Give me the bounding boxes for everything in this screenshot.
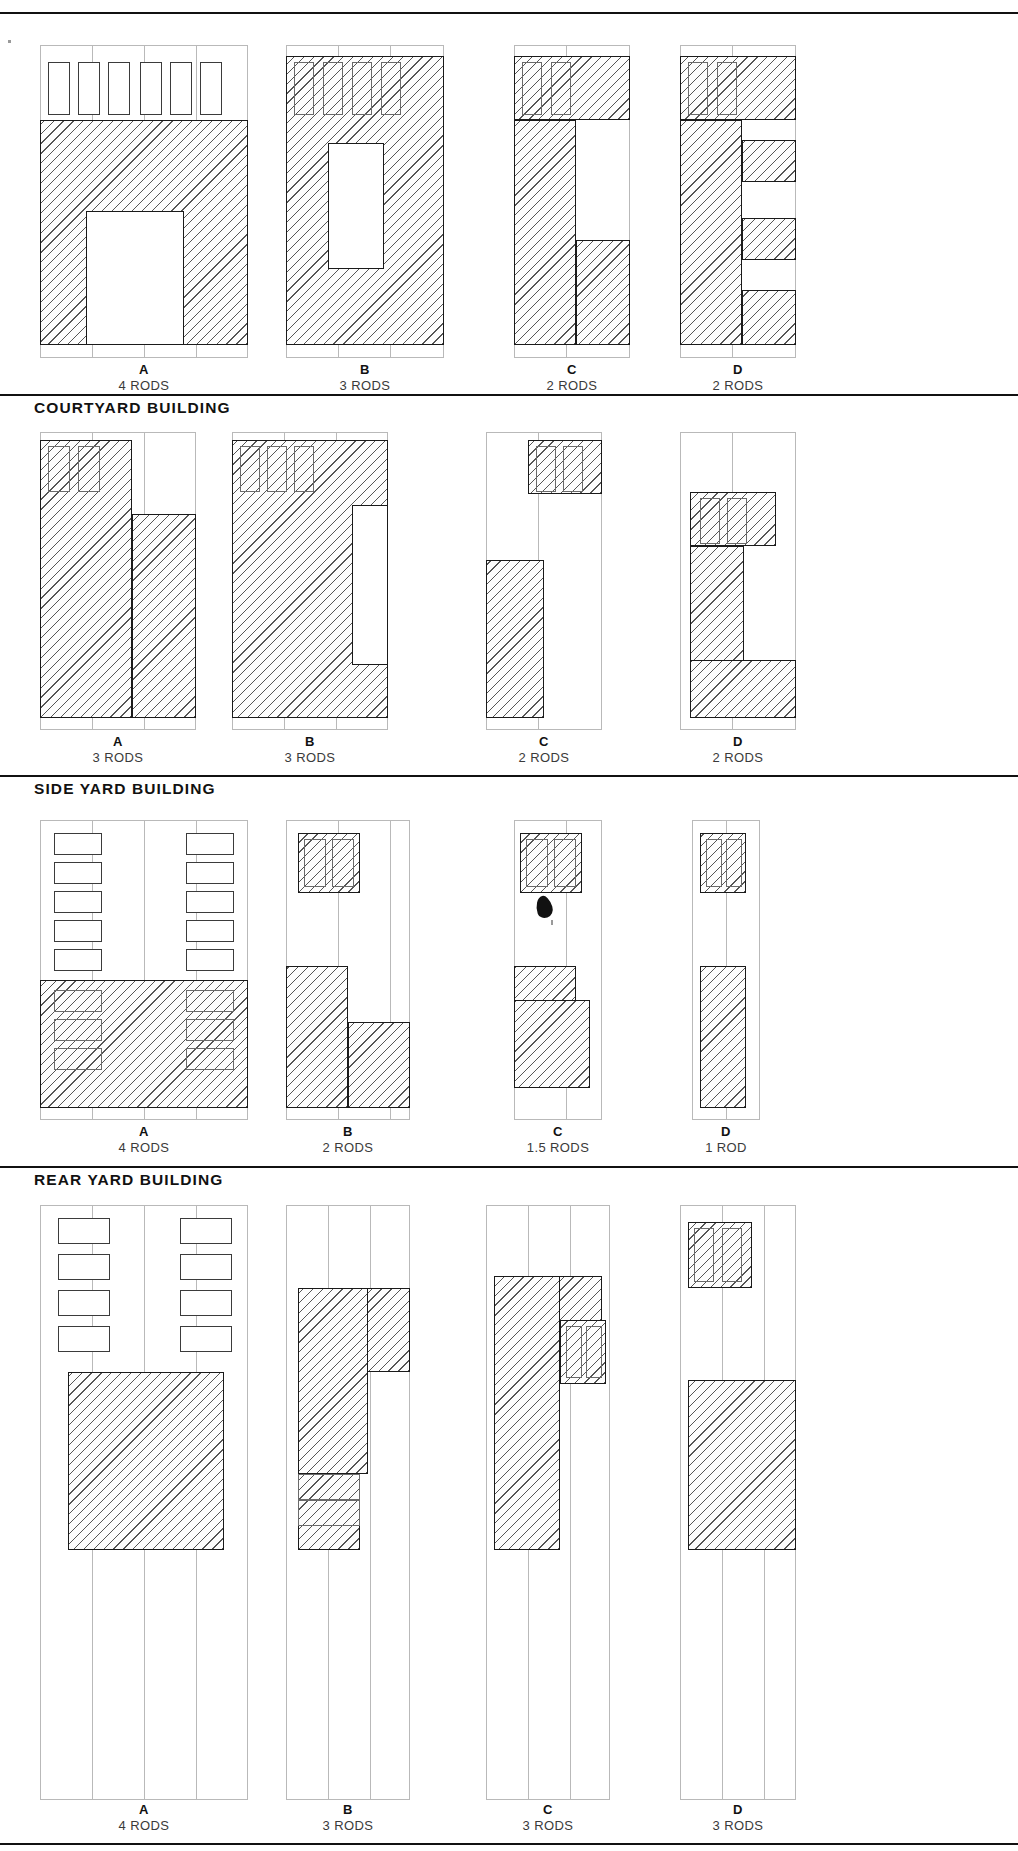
section-rule-rearyard <box>0 1166 1018 1168</box>
caption-row3-B: B 2 RODS <box>248 1124 448 1156</box>
front-unit-box <box>54 891 102 913</box>
rear-unit-box <box>186 1048 234 1070</box>
variant-rods: 1 ROD <box>626 1139 826 1156</box>
caption-row1-B: B 3 RODS <box>265 362 465 394</box>
caption-row1-D: D 2 RODS <box>638 362 838 394</box>
scan-speck <box>551 920 553 925</box>
variant-rods: 4 RODS <box>44 1817 244 1834</box>
variant-rods: 3 RODS <box>210 749 410 766</box>
building-mass <box>286 966 348 1108</box>
section-header-courtyard: COURTYARD BUILDING <box>34 399 231 417</box>
variant-letter: B <box>265 362 465 377</box>
front-unit-box <box>294 62 314 115</box>
front-unit-box <box>352 62 372 115</box>
front-unit-box <box>54 949 102 971</box>
variant-rods: 3 RODS <box>265 377 465 394</box>
courtyard-void <box>328 143 384 269</box>
front-unit-box <box>140 62 162 115</box>
variant-rods: 4 RODS <box>44 1139 244 1156</box>
variant-letter: A <box>44 1802 244 1817</box>
variant-letter: C <box>444 734 644 749</box>
rear-unit-box <box>566 1326 582 1378</box>
rear-unit-box <box>54 1019 102 1041</box>
front-unit-box <box>694 1228 714 1282</box>
front-unit-box <box>180 1218 232 1244</box>
caption-row2-A: A 3 RODS <box>18 734 218 766</box>
front-unit-box <box>54 833 102 855</box>
building-mass <box>742 290 796 345</box>
variant-letter: A <box>44 1124 244 1139</box>
front-unit-box <box>727 498 747 544</box>
variant-letter: C <box>448 1802 648 1817</box>
front-unit-box <box>186 920 234 942</box>
variant-letter: B <box>248 1124 448 1139</box>
front-unit-box <box>186 949 234 971</box>
sheet-top-rule <box>0 12 1018 14</box>
front-unit-box <box>58 1254 110 1280</box>
rear-unit-box <box>54 990 102 1012</box>
rear-unit-box <box>186 990 234 1012</box>
caption-row4-C: C 3 RODS <box>448 1802 648 1834</box>
variant-rods: 2 RODS <box>444 749 644 766</box>
front-unit-box <box>78 446 100 492</box>
building-mass <box>690 660 796 718</box>
section-rule-sideyard <box>0 775 1018 777</box>
front-unit-box <box>526 839 548 887</box>
rear-unit-box <box>298 1500 360 1526</box>
caption-row2-D: D 2 RODS <box>638 734 838 766</box>
variant-letter: B <box>210 734 410 749</box>
caption-row4-B: B 3 RODS <box>248 1802 448 1834</box>
front-unit-box <box>186 833 234 855</box>
front-unit-box <box>54 862 102 884</box>
caption-row1-A: A 4 RODS <box>44 362 244 394</box>
front-unit-box <box>323 62 343 115</box>
front-unit-box <box>48 446 70 492</box>
caption-row2-B: B 3 RODS <box>210 734 410 766</box>
front-unit-box <box>294 446 314 492</box>
section-rule-courtyard <box>0 394 1018 396</box>
variant-rods: 2 RODS <box>248 1139 448 1156</box>
variant-letter: A <box>18 734 218 749</box>
variant-letter: D <box>638 1802 838 1817</box>
front-unit-box <box>54 920 102 942</box>
section-header-rearyard: REAR YARD BUILDING <box>34 1171 223 1189</box>
front-unit-box <box>267 446 287 492</box>
front-unit-box <box>726 839 742 887</box>
sheet-bottom-rule <box>0 1843 1018 1845</box>
building-mass <box>68 1372 224 1550</box>
building-mass <box>690 546 744 672</box>
front-unit-box <box>108 62 130 115</box>
building-mass <box>680 120 742 345</box>
diagram-sheet: A 4 RODS B 3 RODS C 2 RODS D 2 RODS COUR… <box>0 0 1018 1851</box>
front-unit-box <box>522 62 542 115</box>
front-unit-box <box>78 62 100 115</box>
variant-letter: B <box>248 1802 448 1817</box>
courtyard-void <box>352 505 388 665</box>
variant-letter: D <box>638 734 838 749</box>
caption-row4-D: D 3 RODS <box>638 1802 838 1834</box>
front-unit-box <box>240 446 260 492</box>
building-mass <box>576 240 630 345</box>
front-unit-box <box>58 1326 110 1352</box>
rear-unit-box <box>586 1326 602 1378</box>
front-unit-box <box>717 62 737 115</box>
variant-rods: 2 RODS <box>638 377 838 394</box>
section-header-sideyard: SIDE YARD BUILDING <box>34 780 216 798</box>
building-mass <box>514 1000 590 1088</box>
front-unit-box <box>58 1290 110 1316</box>
variant-rods: 4 RODS <box>44 377 244 394</box>
variant-rods: 3 RODS <box>638 1817 838 1834</box>
front-unit-box <box>332 839 354 887</box>
front-unit-box <box>563 446 583 492</box>
caption-row4-A: A 4 RODS <box>44 1802 244 1834</box>
courtyard-void <box>86 211 184 345</box>
variant-letter: D <box>638 362 838 377</box>
caption-row2-C: C 2 RODS <box>444 734 644 766</box>
building-mass <box>742 218 796 260</box>
front-unit-box <box>706 839 722 887</box>
variant-letter: A <box>44 362 244 377</box>
caption-row3-A: A 4 RODS <box>44 1124 244 1156</box>
building-mass <box>742 140 796 182</box>
building-mass <box>348 1022 410 1108</box>
building-mass <box>688 1380 796 1550</box>
